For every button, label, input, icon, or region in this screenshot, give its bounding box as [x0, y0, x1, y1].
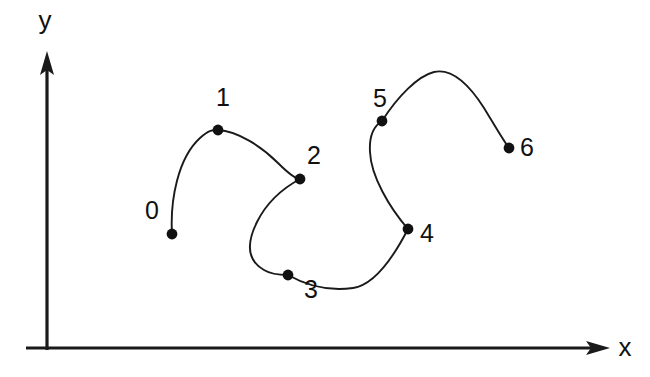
- figure-canvas: y x 0123456: [0, 0, 650, 377]
- control-point-label-1: 1: [216, 83, 230, 111]
- control-point-6: [504, 143, 515, 154]
- control-point-4: [403, 224, 414, 235]
- y-axis: [40, 51, 54, 350]
- spline-figure: y x 0123456: [0, 0, 650, 377]
- control-point-3: [283, 270, 294, 281]
- control-point-1: [213, 125, 224, 136]
- control-point-label-0: 0: [145, 196, 159, 224]
- x-axis-label: x: [619, 332, 632, 362]
- control-point-2: [295, 174, 306, 185]
- control-point-5: [377, 116, 388, 127]
- control-point-label-2: 2: [307, 141, 321, 169]
- control-point-label-6: 6: [520, 133, 534, 161]
- y-axis-label: y: [39, 5, 52, 35]
- x-axis: [26, 341, 610, 355]
- control-point-label-5: 5: [373, 84, 387, 112]
- control-point-0: [167, 229, 178, 240]
- control-point-layer: 0123456: [145, 83, 534, 303]
- control-point-label-3: 3: [304, 275, 318, 303]
- control-point-label-4: 4: [420, 219, 434, 247]
